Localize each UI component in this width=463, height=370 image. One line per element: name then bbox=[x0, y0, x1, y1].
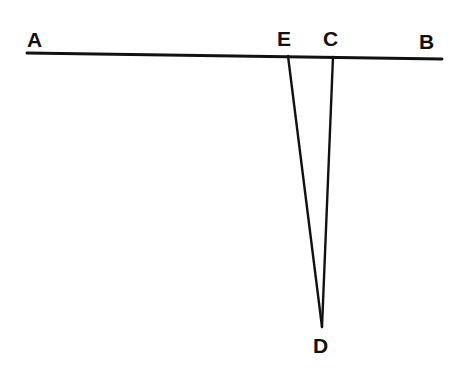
point-label-c: C bbox=[323, 28, 339, 49]
point-label-a: A bbox=[27, 29, 43, 50]
point-label-d: D bbox=[313, 335, 329, 356]
segment-cd bbox=[322, 57, 333, 327]
geometry-figure: A E C B D bbox=[0, 0, 463, 370]
figure-canvas bbox=[0, 0, 463, 370]
point-label-e: E bbox=[277, 28, 292, 49]
point-label-b: B bbox=[419, 31, 435, 52]
segment-ab bbox=[27, 53, 442, 59]
segment-ed bbox=[288, 56, 322, 327]
